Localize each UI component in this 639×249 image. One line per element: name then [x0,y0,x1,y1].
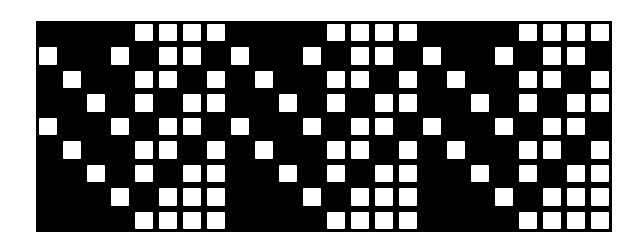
grid-cell-white [132,21,156,44]
grid-cell-black [108,68,132,91]
grid-cell-black [228,68,252,91]
grid-cell-white [204,162,228,185]
grid-cell-black [60,115,84,138]
grid-cell-white [84,162,108,185]
grid-cell-white [180,44,204,67]
grid-cell-white [156,21,180,44]
grid-cell-white [444,138,468,161]
grid-cell-black [36,138,60,161]
grid-cell-black [252,209,276,232]
grid-cell-white [276,91,300,114]
grid-cell-white [108,44,132,67]
grid-cell-white [204,185,228,208]
grid-cell-white [180,209,204,232]
grid-cell-black [444,115,468,138]
grid-cell-black [324,185,348,208]
grid-cell-black [492,68,516,91]
grid-cell-black [60,21,84,44]
grid-cell-white [396,68,420,91]
grid-cell-black [396,44,420,67]
grid-cell-black [444,162,468,185]
grid-cell-white [348,138,372,161]
grid-cell-white [516,209,540,232]
grid-cell-white [564,185,588,208]
grid-cell-black [420,209,444,232]
grid-cell-black [36,68,60,91]
grid-cell-black [252,21,276,44]
grid-cell-white [540,44,564,67]
grid-cell-white [300,115,324,138]
grid-cell-black [300,162,324,185]
grid-cell-white [396,162,420,185]
grid-cell-white [204,68,228,91]
grid-cell-white [204,91,228,114]
grid-cell-black [444,44,468,67]
grid-cell-white [372,91,396,114]
grid-cell-black [228,209,252,232]
grid-cell-black [228,91,252,114]
grid-cell-black [132,44,156,67]
grid-cell-black [204,44,228,67]
grid-cell-white [396,21,420,44]
grid-cell-white [324,91,348,114]
grid-cell-white [156,115,180,138]
grid-cell-white [396,91,420,114]
grid-cell-white [348,21,372,44]
grid-cell-black [276,115,300,138]
grid-cell-black [492,21,516,44]
grid-cell-black [444,21,468,44]
grid-cell-white [372,185,396,208]
grid-cell-white [156,44,180,67]
grid-cell-black [420,91,444,114]
grid-cell-black [420,162,444,185]
grid-cell-black [492,209,516,232]
grid-cell-black [516,44,540,67]
grid-cell-black [204,115,228,138]
grid-cell-black [348,91,372,114]
grid-cell-white [108,115,132,138]
grid-cell-black [132,115,156,138]
grid-cell-black [372,68,396,91]
grid-cell-white [324,209,348,232]
grid-cell-black [84,115,108,138]
grid-cell-black [276,68,300,91]
grid-cell-white [588,68,612,91]
grid-cell-white [396,185,420,208]
grid-cell-white [372,162,396,185]
grid-cell-black [108,21,132,44]
weave-pattern-grid [36,21,612,232]
grid-cell-black [84,68,108,91]
grid-cell-white [564,162,588,185]
grid-cell-black [348,162,372,185]
grid-cell-white [420,115,444,138]
grid-cell-black [60,162,84,185]
grid-cell-black [108,209,132,232]
grid-cell-black [84,209,108,232]
grid-cell-white [564,21,588,44]
grid-cell-white [348,44,372,67]
grid-cell-white [540,21,564,44]
grid-cell-black [468,185,492,208]
grid-cell-white [180,91,204,114]
grid-cell-white [588,162,612,185]
grid-cell-white [252,68,276,91]
grid-cell-black [84,21,108,44]
grid-cell-black [108,162,132,185]
grid-cell-white [420,44,444,67]
grid-cell-white [132,209,156,232]
grid-cell-black [36,185,60,208]
grid-cell-white [516,162,540,185]
grid-cell-black [252,91,276,114]
grid-cell-white [132,68,156,91]
grid-cell-white [348,185,372,208]
grid-cell-black [276,44,300,67]
grid-cell-white [324,68,348,91]
grid-cell-white [468,91,492,114]
grid-cell-black [276,209,300,232]
grid-cell-white [396,138,420,161]
grid-cell-black [180,138,204,161]
grid-cell-black [468,21,492,44]
grid-cell-white [540,115,564,138]
grid-cell-white [516,91,540,114]
grid-cell-white [300,44,324,67]
